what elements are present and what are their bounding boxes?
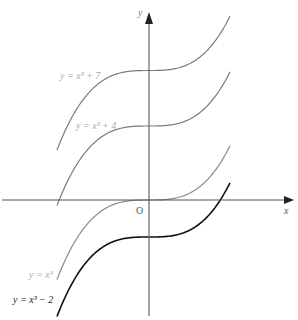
curve-label-plus4: y = x³ + 4	[75, 120, 116, 131]
curve-label-base: y = x³	[28, 269, 54, 280]
curve-plus4	[57, 72, 230, 206]
y-axis-arrow-icon	[145, 12, 153, 24]
curve-base	[57, 146, 230, 280]
graph-canvas: y x O y = x³ + 7 y = x³ + 4 y = x³ y = x…	[0, 0, 298, 320]
curve-minus2	[57, 183, 230, 317]
y-axis-label: y	[137, 7, 143, 18]
x-axis-label: x	[283, 205, 289, 216]
curve-label-minus2: y = x³ − 2	[12, 294, 53, 305]
curves-group	[57, 16, 230, 316]
origin-label: O	[136, 205, 143, 216]
x-axis-arrow-icon	[284, 196, 294, 204]
curve-label-plus7: y = x³ + 7	[59, 70, 101, 81]
